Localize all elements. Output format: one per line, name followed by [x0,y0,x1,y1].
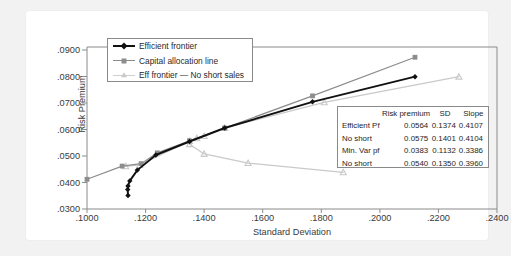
legend-item-label: Eff frontier — No short sales [136,70,244,80]
legend-item-efficient-frontier[interactable]: Efficient frontier [108,39,252,54]
data-point-diamond [310,99,315,104]
table-cell-label: Efficient Pf [338,120,381,133]
table-row: Efficient Pf 0.0564 0.1374 0.4107 [338,120,488,133]
data-point-square [120,164,125,169]
table-cell-risk-premium: 0.0575 [381,132,431,145]
data-point-square [85,177,90,182]
table-header-row: Risk premium SD Slope [338,107,488,120]
x-tick-marks [87,209,497,213]
table-cell-sd: 0.1350 [431,157,459,170]
table-cell-risk-premium: 0.0564 [381,120,431,133]
table-row: No short 0.0540 0.1350 0.3960 [338,157,488,170]
legend-marker-diamond-icon [112,40,136,52]
table-row: No short 0.0575 0.1401 0.4104 [338,132,488,145]
chart-figure: Risk Premium Standard Deviation .0900 .0… [26,11,511,256]
legend-item-eff-frontier-no-short-sales[interactable]: Eff frontier — No short sales [108,68,252,83]
table-cell-sd: 0.1401 [431,132,459,145]
table-header-cell [338,107,381,120]
table-cell-risk-premium: 0.0383 [381,145,431,158]
table-row: Min. Var pf 0.0383 0.1132 0.3386 [338,145,488,158]
table-cell-slope: 0.4107 [459,120,488,133]
data-point-diamond [412,74,417,79]
legend-marker-triangle-icon [112,69,136,81]
table-cell-slope: 0.3386 [459,145,488,158]
series-line [190,144,344,172]
data-point-square [310,93,315,98]
table-cell-label: Min. Var pf [338,145,381,158]
table-cell-sd: 0.1374 [431,120,459,133]
table-cell-slope: 0.3960 [459,157,488,170]
data-point-diamond [125,183,130,188]
table-cell-label: No short [338,132,381,145]
table-cell-label: No short [338,157,381,170]
chart-card: Risk Premium Standard Deviation .0900 .0… [26,11,488,240]
legend-item-capital-allocation-line[interactable]: Capital allocation line [108,54,252,69]
table-header-cell: Slope [459,107,488,120]
series-eff-frontier-no-short-sales-lower [187,141,347,175]
chart-legend: Efficient frontier Capital allocation li… [107,38,253,82]
table-header-cell: SD [431,107,459,120]
table-header-cell: Risk premium [381,107,431,120]
table-cell-slope: 0.4104 [459,132,488,145]
y-tick-marks [82,50,87,209]
data-point-diamond [125,193,130,198]
legend-item-label: Capital allocation line [136,56,218,66]
legend-marker-square-icon [112,55,136,67]
data-point-square [413,55,418,60]
table-cell-sd: 0.1132 [431,145,459,158]
legend-item-label: Efficient frontier [136,41,197,51]
statistics-table: Risk premium SD Slope Efficient Pf 0.056… [337,106,489,168]
table-cell-risk-premium: 0.0540 [381,157,431,170]
